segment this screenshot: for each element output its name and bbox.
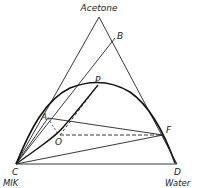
- triangle-frame: [16, 17, 177, 164]
- line-c-f: [16, 135, 163, 164]
- ternary-diagram: Acetone B P A O F C D MIK Water: [0, 0, 199, 188]
- line-c-b: [16, 38, 115, 164]
- label-point-d: D: [174, 167, 181, 177]
- dashed-line-a-o: [48, 118, 58, 134]
- label-point-a: A: [40, 112, 47, 122]
- binodal-curve: [16, 82, 175, 164]
- label-acetone: Acetone: [80, 3, 118, 13]
- label-point-b: B: [117, 31, 123, 41]
- line-c-a: [16, 118, 48, 164]
- label-point-f: F: [166, 125, 172, 135]
- label-point-c: C: [12, 167, 19, 177]
- label-mik: MIK: [3, 178, 20, 188]
- line-f-d: [163, 135, 176, 164]
- label-water: Water: [165, 178, 191, 188]
- tie-line-a-f: [48, 118, 163, 135]
- label-point-o: O: [55, 137, 62, 147]
- label-point-p: P: [95, 75, 101, 85]
